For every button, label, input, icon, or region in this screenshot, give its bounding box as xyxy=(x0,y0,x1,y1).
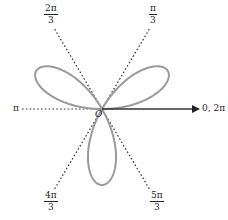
label-den: 3 xyxy=(154,202,160,212)
label-pi-over-3: π 3 xyxy=(149,4,157,25)
origin-label: O xyxy=(95,110,102,119)
ray-5pi-over-3 xyxy=(102,109,150,190)
rose-curve xyxy=(35,66,169,185)
label-den: 3 xyxy=(48,15,54,25)
label-4pi-over-3: 4π 3 xyxy=(44,191,58,212)
label-zero-2pi: 0, 2π xyxy=(202,104,225,113)
arrow-head-icon xyxy=(192,105,200,113)
polar-plot xyxy=(0,0,228,220)
label-pi: π xyxy=(13,104,19,113)
label-2pi-over-3: 2π 3 xyxy=(44,4,58,25)
label-den: 3 xyxy=(150,15,156,25)
label-num: 5π xyxy=(150,191,164,202)
label-5pi-over-3: 5π 3 xyxy=(150,191,164,212)
label-num: π xyxy=(149,4,157,15)
label-num: 4π xyxy=(44,191,58,202)
label-den: 3 xyxy=(48,202,54,212)
label-num: 2π xyxy=(44,4,58,15)
ray-4pi-over-3 xyxy=(54,109,102,190)
